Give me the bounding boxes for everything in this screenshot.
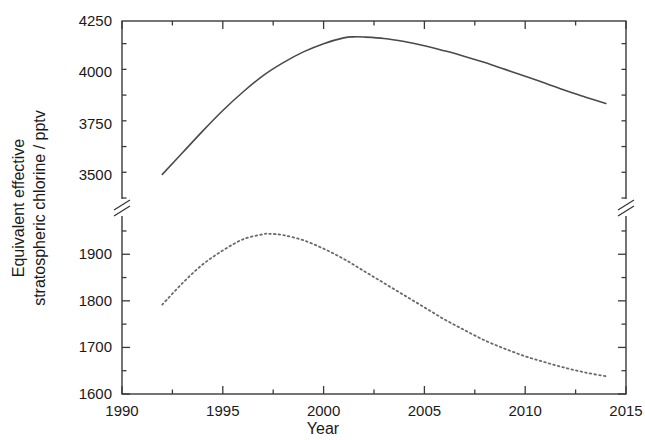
x-axis-ticks bbox=[122, 21, 626, 394]
y-axis-tick-labels: 35003750400042501600170018001900 bbox=[79, 12, 112, 402]
plot-frame bbox=[122, 21, 626, 394]
y-tick-label: 1800 bbox=[79, 292, 112, 309]
series-upper-curve bbox=[162, 37, 606, 175]
series-lower-curve bbox=[162, 234, 606, 377]
y-axis-break-right bbox=[618, 199, 634, 216]
x-tick-label: 2005 bbox=[408, 402, 441, 419]
y-tick-label: 3750 bbox=[79, 115, 112, 132]
x-tick-label: 2015 bbox=[609, 402, 642, 419]
y-axis-title-line1: Equivalent effective bbox=[10, 139, 27, 278]
y-tick-label: 1700 bbox=[79, 338, 112, 355]
y-axis-title-line2: stratospheric chlorine / pptv bbox=[31, 110, 48, 306]
chart-svg: 35003750400042501600170018001900 1990199… bbox=[0, 0, 645, 440]
y-tick-label: 4000 bbox=[79, 63, 112, 80]
x-tick-label: 1995 bbox=[206, 402, 239, 419]
x-tick-label: 2010 bbox=[509, 402, 542, 419]
x-axis-tick-labels: 199019952000200520102015 bbox=[105, 402, 642, 419]
y-tick-label: 4250 bbox=[79, 12, 112, 29]
x-tick-label: 2000 bbox=[307, 402, 340, 419]
y-axis-lower-ticks bbox=[122, 231, 626, 394]
y-axis-upper-ticks bbox=[122, 44, 626, 198]
y-tick-label: 3500 bbox=[79, 166, 112, 183]
y-tick-label: 1600 bbox=[79, 385, 112, 402]
y-tick-label: 1900 bbox=[79, 245, 112, 262]
y-axis-break-left bbox=[114, 199, 130, 216]
x-axis-title: Year bbox=[307, 420, 340, 437]
x-tick-label: 1990 bbox=[105, 402, 138, 419]
chart-figure: 35003750400042501600170018001900 1990199… bbox=[0, 0, 645, 440]
